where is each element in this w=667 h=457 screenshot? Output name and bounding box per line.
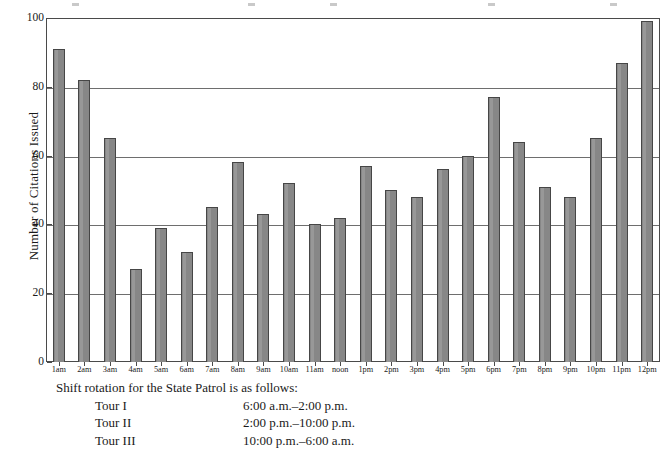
bar <box>360 166 372 362</box>
y-axis-tick-label: 100 <box>8 12 44 24</box>
y-axis-tick-label: 0 <box>8 356 44 368</box>
bar <box>130 269 142 362</box>
bar <box>78 80 90 362</box>
bar <box>104 138 116 362</box>
y-axis-tick-label: 40 <box>8 218 44 230</box>
bar <box>641 21 653 362</box>
bar <box>155 228 167 362</box>
y-axis-tick-mark <box>47 362 52 363</box>
bar-series <box>46 18 660 362</box>
y-axis-tick-mark <box>47 87 52 88</box>
bar <box>513 142 525 362</box>
tour-row: Tour II2:00 p.m.–10:00 p.m. <box>56 414 656 432</box>
bar <box>437 169 449 362</box>
y-axis-tick-label: 60 <box>8 150 44 162</box>
tour-time-range: 6:00 a.m.–2:00 p.m. <box>243 397 348 415</box>
y-axis-tick-label: 20 <box>8 287 44 299</box>
bar <box>283 183 295 362</box>
shift-rotation-note: Shift rotation for the State Patrol is a… <box>56 379 656 449</box>
y-axis-tick-mark <box>47 156 52 157</box>
bar <box>309 224 321 362</box>
tour-name: Tour II <box>95 414 243 432</box>
bar <box>232 162 244 362</box>
bar <box>564 197 576 362</box>
tour-time-range: 10:00 p.m.–6:00 a.m. <box>243 432 354 450</box>
bar <box>539 187 551 362</box>
tour-row: Tour III10:00 p.m.–6:00 a.m. <box>56 432 656 450</box>
bar <box>385 190 397 362</box>
bar <box>334 218 346 362</box>
bar <box>181 252 193 362</box>
bar <box>590 138 602 362</box>
x-axis-tick-labels: 1am2am3am4am5am6am7am8am9am10am11amnoon1… <box>46 364 660 378</box>
y-axis-tick-mark <box>47 293 52 294</box>
note-intro-text: Shift rotation for the State Patrol is a… <box>56 379 656 397</box>
bar <box>411 197 423 362</box>
chart-page: Number of Citations Issued 1am2am3am4am5… <box>0 0 667 457</box>
bar <box>53 49 65 362</box>
bar <box>488 97 500 362</box>
tour-time-range: 2:00 p.m.–10:00 p.m. <box>243 414 355 432</box>
y-axis-tick-mark <box>47 224 52 225</box>
tour-name: Tour III <box>95 432 243 450</box>
bar <box>257 214 269 362</box>
y-axis-tick-label: 80 <box>8 81 44 93</box>
tour-row: Tour I6:00 a.m.–2:00 p.m. <box>56 397 656 415</box>
bar <box>206 207 218 362</box>
tour-list: Tour I6:00 a.m.–2:00 p.m.Tour II2:00 p.m… <box>56 397 656 450</box>
bar <box>616 63 628 362</box>
tour-name: Tour I <box>95 397 243 415</box>
bar <box>462 156 474 362</box>
x-axis-tick-label: 12pm <box>630 364 664 376</box>
y-axis-tick-mark <box>47 18 52 19</box>
bar-chart: Number of Citations Issued 1am2am3am4am5… <box>0 0 667 372</box>
